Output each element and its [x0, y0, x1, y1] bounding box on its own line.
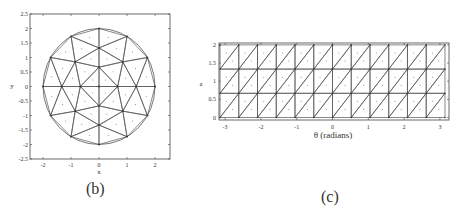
z-tick-label: 2 [213, 42, 216, 48]
mesh-vertex [257, 44, 259, 46]
x-tick-label: -1 [69, 162, 74, 168]
mesh-triangle [370, 69, 389, 93]
centroid-dot [108, 37, 109, 38]
mesh-triangle [239, 93, 258, 117]
centroid-dot [146, 76, 147, 77]
centroid-dot [288, 85, 289, 86]
centroid-dot [363, 109, 364, 110]
mesh-vertex [50, 57, 52, 59]
centroid-dot [81, 48, 82, 49]
centroid-dot [282, 77, 283, 78]
centroid-dot [81, 124, 82, 125]
centroid-dot [326, 61, 327, 62]
centroid-dot [65, 51, 66, 52]
centroid-dot [132, 121, 133, 122]
mesh-vertex [219, 44, 221, 46]
centroid-dot [363, 61, 364, 62]
centroid-dot [245, 77, 246, 78]
centroid-dot [251, 61, 252, 62]
centroid-dot [376, 52, 377, 53]
centroid-dot [125, 78, 126, 79]
theta-axis-label: θ (radians) [314, 130, 353, 140]
mesh-vertex [122, 110, 124, 112]
mesh-vertex [332, 68, 334, 70]
theta-tick-label: 1 [367, 124, 370, 130]
centroid-dot [232, 85, 233, 86]
centroid-dot [401, 109, 402, 110]
centroid-dot [263, 52, 264, 53]
centroid-dot [301, 52, 302, 53]
mesh-triangle [220, 69, 239, 93]
mesh-triangle [71, 29, 99, 48]
y-tick-label: 0 [25, 84, 28, 90]
mesh-vertex [444, 93, 446, 95]
mesh-vertex [98, 144, 100, 146]
mesh-vertex [219, 68, 221, 70]
mesh-vertex [294, 117, 296, 119]
mesh-vertex [313, 44, 315, 46]
mesh-vertex [369, 117, 371, 119]
x-tick-label: 1 [126, 162, 129, 168]
mesh-vertex [257, 68, 259, 70]
mesh-triangle [51, 58, 76, 87]
y-axis-label: y [10, 82, 14, 90]
mesh-vertex [332, 117, 334, 119]
mesh-vertex [294, 44, 296, 46]
mesh-vertex [425, 93, 427, 95]
centroid-dot [105, 80, 106, 81]
mesh-vertex [369, 44, 371, 46]
mesh-triangle [118, 62, 137, 87]
mesh-triangle [62, 87, 81, 112]
mesh-triangle [239, 45, 258, 69]
mesh-vertex [219, 117, 221, 119]
centroid-dot [72, 94, 73, 95]
centroid-dot [108, 135, 109, 136]
plot-b-disk-mesh: -2-10122.521.510.50-0.5-1-1.5-2-2.5xy [10, 11, 170, 176]
mesh-triangle [370, 93, 389, 117]
centroid-dot [419, 109, 420, 110]
mesh-vertex [238, 93, 240, 95]
mesh-triangle [99, 36, 127, 62]
theta-tick-label: -3 [223, 124, 228, 130]
mesh-vertex [313, 93, 315, 95]
mesh-vertex [79, 86, 81, 88]
mesh-vertex [98, 105, 100, 107]
centroid-dot [245, 101, 246, 102]
centroid-dot [432, 101, 433, 102]
y-tick-label: -2.5 [19, 156, 29, 162]
mesh-vertex [275, 117, 277, 119]
centroid-dot [282, 52, 283, 53]
mesh-vertex [350, 93, 352, 95]
mesh-vertex [50, 115, 52, 117]
mesh-triangle [389, 93, 408, 117]
centroid-dot [301, 77, 302, 78]
centroid-dot [270, 109, 271, 110]
mesh-triangle [258, 69, 277, 93]
centroid-dot [401, 61, 402, 62]
centroid-dot [357, 77, 358, 78]
mesh-triangle [295, 93, 314, 117]
centroid-dot [394, 77, 395, 78]
centroid-dot [394, 52, 395, 53]
mesh-vertex [70, 35, 72, 37]
centroid-dot [338, 52, 339, 53]
caption-b: (b) [86, 180, 105, 198]
centroid-dot [232, 61, 233, 62]
mesh-triangle [314, 45, 333, 69]
mesh-triangle [276, 93, 295, 117]
centroid-dot [116, 48, 117, 49]
mesh-triangle [258, 93, 277, 117]
mesh-vertex [98, 124, 100, 126]
mesh-vertex [219, 93, 221, 95]
mesh-triangle [123, 87, 148, 116]
mesh-vertex [147, 115, 149, 117]
mesh-triangle [276, 45, 295, 69]
centroid-dot [432, 52, 433, 53]
z-tick-label: 0.5 [209, 96, 217, 102]
mesh-vertex [257, 93, 259, 95]
mesh-vertex [98, 28, 100, 30]
centroid-dot [307, 109, 308, 110]
centroid-dot [394, 101, 395, 102]
mesh-vertex [294, 68, 296, 70]
mesh-vertex [122, 61, 124, 63]
